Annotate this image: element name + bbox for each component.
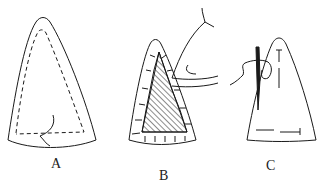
panel-c-needle — [256, 47, 260, 110]
panel-b-label: B — [159, 168, 168, 184]
panel-a-label: A — [51, 156, 61, 172]
panel-b-hand-outline — [172, 8, 218, 87]
panel-c-drawing — [230, 38, 316, 142]
panel-b-drawing — [129, 8, 218, 145]
panel-a-thread — [40, 115, 54, 146]
panel-c-thread — [230, 60, 271, 85]
panel-a-drawing — [8, 18, 96, 148]
diagram-canvas — [0, 0, 325, 195]
panel-c-label: C — [266, 158, 275, 174]
